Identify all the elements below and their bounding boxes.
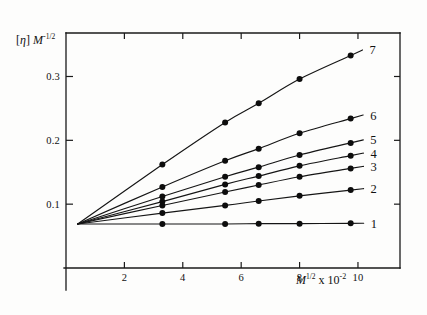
x-axis-m-symbol: M bbox=[296, 273, 306, 287]
data-point-marker bbox=[159, 199, 165, 205]
data-point-marker bbox=[297, 163, 303, 169]
curve-label-3: 3 bbox=[371, 160, 377, 174]
curve-label-2: 2 bbox=[371, 182, 377, 196]
data-point-marker bbox=[222, 221, 228, 227]
x-tick-label: 6 bbox=[238, 272, 243, 283]
data-point-marker bbox=[159, 162, 165, 168]
curve-line bbox=[78, 115, 363, 224]
data-point-marker bbox=[256, 173, 262, 179]
data-point-marker bbox=[348, 52, 354, 58]
data-point-marker bbox=[297, 152, 303, 158]
data-point-marker bbox=[348, 140, 354, 146]
x-tick-label: 4 bbox=[180, 272, 186, 283]
y-axis-bracket-close: ] bbox=[26, 33, 30, 47]
figure-container: 2468100.10.20.3 1234567 [η]M-1/2 M1/2x10… bbox=[0, 0, 427, 315]
curve-label-6: 6 bbox=[370, 109, 376, 123]
data-point-marker bbox=[348, 153, 354, 159]
x-axis-base-exponent: -2 bbox=[340, 272, 347, 281]
data-point-marker bbox=[297, 76, 303, 82]
data-point-marker bbox=[297, 174, 303, 180]
tick-labels: 2468100.10.20.3 bbox=[46, 71, 363, 283]
data-point-marker bbox=[297, 193, 303, 199]
data-points bbox=[159, 52, 353, 227]
data-point-marker bbox=[256, 164, 262, 170]
data-point-marker bbox=[222, 181, 228, 187]
data-point-marker bbox=[348, 165, 354, 171]
curve-label-1: 1 bbox=[371, 217, 377, 231]
curve-label-4: 4 bbox=[370, 147, 377, 161]
x-tick-label: 10 bbox=[353, 272, 364, 283]
data-point-marker bbox=[256, 146, 262, 152]
data-point-marker bbox=[297, 221, 303, 227]
data-point-marker bbox=[256, 198, 262, 204]
data-point-marker bbox=[159, 184, 165, 190]
curve-line bbox=[78, 166, 364, 224]
data-point-marker bbox=[159, 210, 165, 216]
chart-plot: 2468100.10.20.3 1234567 bbox=[0, 0, 427, 315]
y-axis-m-symbol: M bbox=[33, 33, 43, 47]
x-axis-m-exponent: 1/2 bbox=[306, 272, 316, 281]
curve-line bbox=[78, 50, 363, 224]
data-curves bbox=[78, 50, 364, 224]
x-axis-base: 10 bbox=[328, 273, 340, 287]
data-point-marker bbox=[256, 221, 262, 227]
y-tick-label: 0.1 bbox=[46, 199, 60, 210]
curve-line bbox=[78, 140, 364, 224]
x-tick-label: 2 bbox=[122, 272, 127, 283]
y-tick-label: 0.2 bbox=[46, 135, 60, 146]
curve-labels: 1234567 bbox=[369, 43, 377, 230]
data-point-marker bbox=[256, 182, 262, 188]
data-point-marker bbox=[222, 202, 228, 208]
data-point-marker bbox=[222, 189, 228, 195]
curve-label-5: 5 bbox=[370, 133, 376, 147]
y-axis-exponent-fraction: 1/2 bbox=[46, 32, 56, 41]
data-point-marker bbox=[348, 116, 354, 122]
data-point-marker bbox=[256, 100, 262, 106]
data-point-marker bbox=[159, 221, 165, 227]
y-tick-label: 0.3 bbox=[46, 71, 60, 82]
y-axis-exponent: -1/2 bbox=[43, 32, 55, 41]
data-point-marker bbox=[222, 174, 228, 180]
curve-label-7: 7 bbox=[369, 43, 375, 57]
data-point-marker bbox=[297, 130, 303, 136]
x-axis-times-symbol: x bbox=[319, 273, 325, 287]
curve-line bbox=[78, 223, 364, 224]
data-point-marker bbox=[348, 220, 354, 226]
axes bbox=[64, 33, 400, 290]
x-axis-title: M1/2x10-2 bbox=[296, 272, 346, 288]
y-axis-title: [η]M-1/2 bbox=[16, 32, 55, 48]
data-point-marker bbox=[159, 194, 165, 200]
data-point-marker bbox=[348, 187, 354, 193]
data-point-marker bbox=[222, 158, 228, 164]
curve-line bbox=[78, 153, 364, 224]
data-point-marker bbox=[222, 119, 228, 125]
